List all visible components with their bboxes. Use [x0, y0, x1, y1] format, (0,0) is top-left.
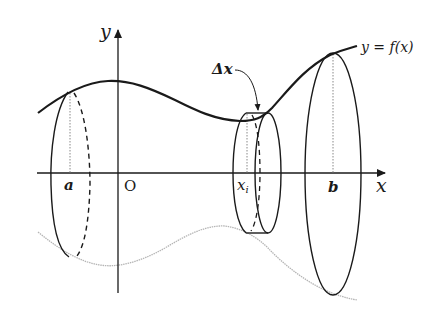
origin-label: O — [124, 177, 136, 195]
solid-of-revolution-diagram: y x O a b xi Δx y = f(x) — [0, 0, 444, 319]
xi-label-sub: i — [245, 184, 248, 195]
disk-at-a-front — [51, 92, 69, 257]
disk-at-b — [305, 53, 361, 295]
function-label: y = f(x) — [360, 39, 414, 55]
b-label: b — [328, 178, 339, 196]
x-axis-label: x — [376, 174, 387, 196]
a-label: a — [64, 176, 74, 194]
delta-x-label: Δx — [211, 60, 234, 78]
disk-at-a-back — [74, 93, 90, 256]
y-axis-label: y — [99, 20, 111, 42]
delta-x-pointer — [235, 70, 258, 110]
xi-label: xi — [237, 176, 249, 195]
